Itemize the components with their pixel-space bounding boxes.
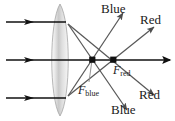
label-focal-red: Fred bbox=[113, 64, 131, 76]
label-focal-blue: Fblue bbox=[78, 84, 99, 96]
label-blue-bottom: Blue bbox=[111, 103, 136, 116]
chromatic-aberration-diagram: Blue Red Blue Red Fred Fblue bbox=[0, 0, 175, 121]
focal-point-blue-marker bbox=[89, 57, 95, 63]
label-focal-blue-subscript: blue bbox=[85, 89, 99, 98]
label-focal-red-subscript: red bbox=[120, 69, 130, 78]
label-red-top: Red bbox=[140, 13, 161, 26]
focal-point-red-marker bbox=[110, 57, 116, 63]
label-blue-top: Blue bbox=[101, 2, 126, 15]
label-red-bottom: Red bbox=[139, 88, 160, 101]
